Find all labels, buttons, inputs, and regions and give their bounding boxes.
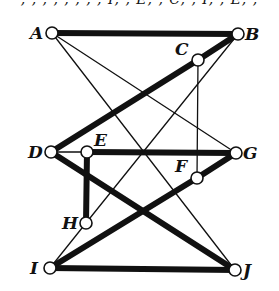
node-E — [81, 146, 93, 158]
node-F — [191, 172, 203, 184]
node-D — [45, 146, 57, 158]
node-label-I: I — [29, 258, 39, 278]
node-label-G: G — [243, 143, 258, 163]
edge-E-G-thick — [87, 152, 236, 153]
node-label-A: A — [28, 23, 43, 43]
edge-F-G-thick — [197, 153, 236, 178]
node-J — [229, 264, 241, 276]
node-H — [80, 217, 92, 229]
node-label-F: F — [174, 156, 189, 176]
node-label-E: E — [93, 130, 108, 150]
edge-E-H-thick — [86, 152, 87, 223]
node-label-D: D — [27, 142, 43, 162]
node-C — [192, 54, 204, 66]
node-label-C: C — [175, 39, 189, 59]
node-label-J: J — [240, 260, 252, 280]
edge-I-J-thick — [50, 268, 235, 270]
graph-diagram: ABCDEFGHIJ — [0, 0, 279, 291]
node-B — [232, 28, 244, 40]
node-G — [230, 147, 242, 159]
edge-C-F-thin — [197, 60, 198, 178]
edge-A-B-thick — [52, 33, 238, 34]
node-I — [44, 262, 56, 274]
node-label-H: H — [61, 213, 79, 233]
edge-B-H-thin — [86, 34, 238, 223]
node-A — [46, 27, 58, 39]
edge-C-D-thick — [51, 60, 198, 152]
edge-B-C-thick — [198, 34, 238, 60]
edges-layer — [50, 33, 238, 270]
node-label-B: B — [244, 24, 259, 44]
